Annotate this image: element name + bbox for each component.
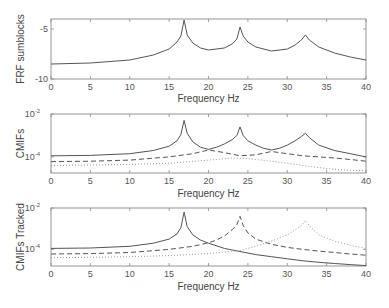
axes-box [51, 114, 366, 173]
y-tick-label: 10-4 [25, 243, 41, 254]
x-tick-label: 20 [203, 269, 213, 279]
x-tick-label: 15 [164, 269, 174, 279]
x-tick-label: 0 [48, 176, 53, 186]
axes-box [51, 19, 366, 79]
x-tick-label: 10 [125, 269, 135, 279]
y-tick-label: 10-2 [25, 108, 41, 119]
x-tick-label: 15 [164, 82, 174, 92]
y-axis-label: FRF sumblocks [15, 14, 26, 83]
figure: 0510152025303540-5-10Frequency HzFRF sum… [0, 0, 389, 308]
x-tick-label: 35 [322, 176, 332, 186]
x-tick-label: 25 [243, 82, 253, 92]
subplot-3: 051015202530354010-210-4Frequency HzCMIF… [15, 202, 371, 292]
x-tick-label: 30 [282, 176, 292, 186]
x-tick-label: 25 [243, 269, 253, 279]
x-axis-label: Frequency Hz [177, 93, 239, 104]
x-tick-label: 40 [361, 269, 371, 279]
subplot-1: 0510152025303540-5-10Frequency HzFRF sum… [15, 14, 371, 104]
y-tick-label: 10-4 [25, 151, 41, 162]
x-tick-label: 0 [48, 269, 53, 279]
x-tick-label: 35 [322, 82, 332, 92]
x-axis-label: Frequency Hz [177, 188, 239, 199]
y-tick-label: -10 [35, 74, 48, 84]
subplot-2: 051015202530354010-210-4Frequency HzCMIF… [15, 108, 371, 199]
axes-box [51, 208, 366, 266]
x-tick-label: 20 [203, 176, 213, 186]
y-tick-label: -5 [40, 24, 48, 34]
x-tick-label: 5 [88, 176, 93, 186]
x-tick-label: 35 [322, 269, 332, 279]
x-tick-label: 5 [88, 82, 93, 92]
x-tick-label: 40 [361, 82, 371, 92]
y-axis-label: CMIFs [15, 129, 26, 158]
x-tick-label: 10 [125, 82, 135, 92]
x-tick-label: 40 [361, 176, 371, 186]
x-tick-label: 5 [88, 269, 93, 279]
x-tick-label: 30 [282, 82, 292, 92]
x-tick-label: 15 [164, 176, 174, 186]
x-tick-label: 25 [243, 176, 253, 186]
x-axis-label: Frequency Hz [177, 281, 239, 292]
x-tick-label: 0 [48, 82, 53, 92]
y-tick-label: 10-2 [25, 202, 41, 213]
x-tick-label: 30 [282, 269, 292, 279]
x-tick-label: 20 [203, 82, 213, 92]
x-tick-label: 10 [125, 176, 135, 186]
y-axis-label: CMIFs Tracked [15, 203, 26, 271]
